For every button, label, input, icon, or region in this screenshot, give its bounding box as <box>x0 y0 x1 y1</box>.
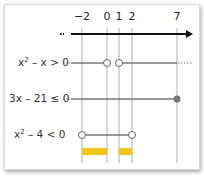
axis-line <box>60 30 193 38</box>
tick-label-neg2: −2 <box>74 10 90 23</box>
guide-lines <box>82 28 177 163</box>
open-point-neg2 <box>79 132 86 139</box>
row-2-label: 3x – 21 ≤ 0 <box>9 92 69 104</box>
open-point-2 <box>129 132 136 139</box>
tick-label-7: 7 <box>174 10 181 23</box>
tick-label-2: 2 <box>129 10 136 23</box>
tick-label-0: 0 <box>104 10 111 23</box>
open-point-0 <box>104 60 111 67</box>
row-1-label: x2 – x > 0 <box>18 56 69 68</box>
row-3-label: x2 – 4 < 0 <box>14 128 65 140</box>
closed-point-7 <box>174 96 181 103</box>
row-2-lines <box>63 96 181 103</box>
intersection-bars <box>82 148 132 155</box>
number-line-diagram <box>0 0 204 178</box>
tick-label-1: 1 <box>116 10 123 23</box>
arrow-head-icon <box>186 30 193 38</box>
open-point-1 <box>116 60 123 67</box>
